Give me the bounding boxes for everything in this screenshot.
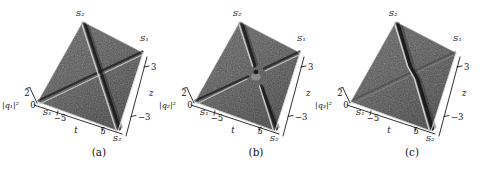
- soliton-bottom-left-label: S₁: [200, 108, 209, 117]
- soliton-bottom-right-label: S₂: [270, 134, 279, 143]
- amplitude-axis-label: |q₃|²: [315, 101, 332, 110]
- z-tick-3: 3: [464, 62, 469, 72]
- amplitude-tick-0: 0: [187, 100, 192, 110]
- collision-dark-dip: [254, 70, 259, 75]
- z-axis-label: z: [148, 88, 154, 98]
- amplitude-tick-2: 2: [24, 88, 29, 98]
- amplitude-axis-label: |q₁|²: [2, 101, 19, 110]
- t-axis-label: t: [74, 125, 78, 135]
- soliton-bottom-right-label: S₂: [426, 134, 435, 143]
- panel-a: 2 |q₁|² 0 S₂ S₁ S₁ −5 t 5 S₂ 3 z −3 (a): [0, 0, 169, 169]
- z-axis-label: z: [305, 88, 311, 98]
- t-axis-label: t: [231, 125, 235, 135]
- soliton-bottom-left-label: S₁: [356, 108, 365, 117]
- t-tick-5: 5: [257, 126, 262, 136]
- soliton-bottom-right-label: S₂: [113, 134, 122, 143]
- collision-bright-spot: [251, 74, 261, 81]
- soliton-top-right-label: S₁: [453, 34, 462, 43]
- amplitude-tick-2: 2: [181, 88, 186, 98]
- z-tick-minus3: −3: [138, 112, 151, 122]
- amplitude-tick-0: 0: [30, 100, 35, 110]
- amplitude-tick-2: 2: [337, 88, 342, 98]
- t-tick-minus5: −5: [367, 113, 380, 123]
- soliton-top-right-label: S₁: [297, 34, 306, 43]
- soliton-top-label: S₂: [389, 9, 398, 18]
- soliton-top-label: S₂: [233, 9, 242, 18]
- amplitude-axis-label: |q₂|²: [159, 101, 176, 110]
- soliton-top-label: S₂: [76, 9, 85, 18]
- soliton-figure: 2 |q₁|² 0 S₂ S₁ S₁ −5 t 5 S₂ 3 z −3 (a): [0, 0, 482, 169]
- z-tick-minus3: −3: [295, 112, 308, 122]
- z-axis-label: z: [461, 88, 467, 98]
- z-tick-3: 3: [151, 62, 156, 72]
- panel-caption: (b): [249, 146, 264, 158]
- soliton-bottom-left-label: S₁: [43, 108, 52, 117]
- panel-c: 2 |q₃|² 0 S₂ S₁ S₁ −5 t 5 S₂ 3 z −3 (c): [313, 0, 482, 169]
- amplitude-tick-0: 0: [343, 100, 348, 110]
- t-axis-label: t: [387, 125, 391, 135]
- panel-caption: (a): [92, 146, 106, 158]
- t-tick-5: 5: [413, 126, 418, 136]
- panel-b: 2 |q₂|² 0 S₂ S₁ S₁ −5 t 5 S₂ 3 z −3 (b): [157, 0, 326, 169]
- z-tick-minus3: −3: [451, 112, 464, 122]
- t-tick-minus5: −5: [54, 113, 67, 123]
- t-tick-minus5: −5: [211, 113, 224, 123]
- soliton-top-right-label: S₁: [140, 34, 149, 43]
- t-tick-5: 5: [100, 126, 105, 136]
- panel-caption: (c): [405, 146, 419, 158]
